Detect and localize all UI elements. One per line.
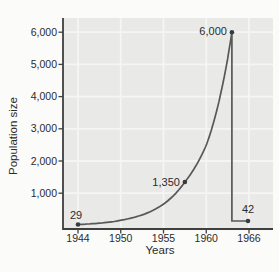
x-tick-labels: 19441950195519601966 — [66, 232, 261, 244]
y-tick-label: 4,000 — [31, 90, 57, 102]
population-chart: 19441950195519601966 6,0005,0004,0003,00… — [0, 0, 279, 272]
data-point — [183, 180, 188, 185]
data-point — [76, 222, 81, 227]
y-tick-label: 2,000 — [31, 155, 57, 167]
y-axis-title: Population size — [7, 97, 19, 175]
x-axis-title: Years — [146, 244, 175, 256]
data-point-label: 42 — [242, 203, 254, 215]
y-tick-labels: 6,0005,0004,0003,0002,0001,000 — [31, 26, 57, 199]
population-chart-figure: 19441950195519601966 6,0005,0004,0003,00… — [0, 0, 279, 272]
data-point-label: 6,000 — [199, 25, 227, 37]
x-tick-label: 1960 — [195, 232, 219, 244]
data-point-label: 1,350 — [152, 176, 180, 188]
data-point-label: 29 — [70, 209, 82, 221]
plot-area — [63, 18, 273, 229]
x-tick-label: 1966 — [237, 232, 261, 244]
y-tick-label: 5,000 — [31, 58, 57, 70]
y-tick-label: 3,000 — [31, 122, 57, 134]
y-tick-label: 6,000 — [31, 26, 57, 38]
data-point — [230, 30, 235, 35]
y-tick-label: 1,000 — [31, 187, 57, 199]
x-tick-label: 1955 — [152, 232, 176, 244]
x-tick-label: 1944 — [66, 232, 90, 244]
data-point — [246, 219, 251, 224]
x-tick-label: 1950 — [109, 232, 133, 244]
